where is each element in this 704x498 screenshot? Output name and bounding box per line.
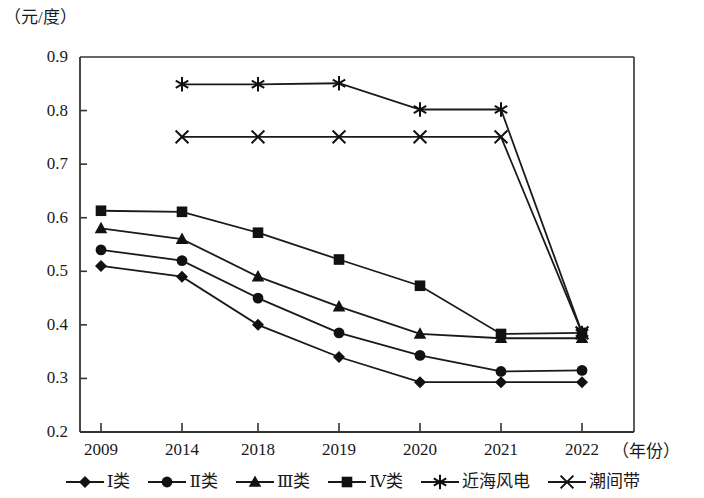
diamond-marker [79,476,91,488]
diamond-marker [64,472,106,492]
circle-marker [415,350,426,361]
chart-container: （元/度） 0.90.80.70.60.50.40.30.2 200920142… [0,0,704,498]
square-marker [334,254,345,265]
legend-item[interactable]: Ⅲ类 [234,472,310,492]
diamond-marker [176,271,188,283]
series-cross [176,130,589,339]
triangle-marker [234,472,276,492]
legend-label: Ⅰ类 [107,472,131,492]
diamond-marker [252,319,264,331]
axis-tick-marks [80,111,582,432]
legend-label: Ⅳ类 [369,472,403,492]
triangle-marker [95,222,108,233]
diamond-marker [576,376,588,388]
circle-marker [162,477,173,488]
legend-item[interactable]: Ⅰ类 [64,472,131,492]
legend-label: Ⅲ类 [277,472,310,492]
triangle-marker [252,270,265,281]
legend-label: 潮间带 [589,472,640,492]
square-marker [177,207,188,218]
series-line [182,83,582,333]
circle-marker [96,244,107,255]
legend-label: Ⅱ类 [189,472,218,492]
asterisk-marker [419,472,461,492]
legend-item[interactable]: 近海风电 [419,472,530,492]
legend-label: 近海风电 [462,472,530,492]
diamond-marker [95,260,107,272]
circle-marker [177,255,188,266]
triangle-marker [249,475,262,486]
circle-marker [146,472,188,492]
square-marker [96,205,107,216]
series-square [96,205,588,339]
square-marker [342,477,353,488]
series-triangle [95,222,589,343]
legend-item[interactable]: Ⅳ类 [326,472,403,492]
data-series-layer [95,76,589,388]
circle-marker [577,365,588,376]
legend-item[interactable]: Ⅱ类 [146,472,218,492]
square-marker [326,472,368,492]
square-marker [253,227,264,238]
circle-marker [496,366,507,377]
square-marker [496,329,507,340]
cross-marker [546,472,588,492]
series-line [101,266,582,382]
square-marker [415,280,426,291]
legend-item[interactable]: 潮间带 [546,472,640,492]
diamond-marker [333,351,345,363]
chart-legend: Ⅰ类Ⅱ类Ⅲ类Ⅳ类近海风电潮间带 [0,466,704,498]
circle-marker [253,293,264,304]
diamond-marker [495,376,507,388]
series-line [101,211,582,334]
diamond-marker [414,376,426,388]
series-line [101,228,582,338]
series-asterisk [176,76,588,340]
series-diamond [95,260,588,388]
plot-area [0,0,704,498]
circle-marker [334,327,345,338]
